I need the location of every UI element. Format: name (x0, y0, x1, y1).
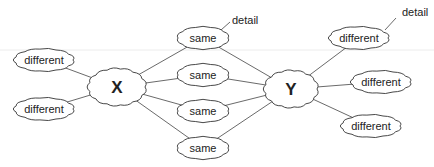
hub-x-label: X (111, 78, 123, 97)
different-node-x-0-label: different (24, 54, 64, 66)
different-node-y-1-label: different (361, 76, 401, 88)
same-node-0: same (177, 26, 228, 49)
different-node-x-0: different (13, 48, 74, 71)
different-node-x-1: different (13, 97, 74, 120)
different-node-y-2-label: different (351, 120, 391, 132)
detail-label: detail (402, 6, 428, 18)
nodes: differentdifferentsamesamesamesamediffer… (13, 26, 411, 159)
same-node-1: same (177, 63, 228, 86)
different-node-y-0-label: different (339, 32, 379, 44)
different-node-y-2: different (340, 114, 401, 137)
same-node-1-label: same (190, 69, 217, 81)
same-node-3-label: same (190, 142, 217, 154)
compare-contrast-diagram: detaildetail differentdifferentsamesames… (0, 0, 434, 167)
same-node-2-label: same (190, 105, 217, 117)
different-node-y-0: different (328, 26, 389, 49)
different-node-y-1: different (350, 70, 411, 93)
same-node-0-label: same (190, 32, 217, 44)
different-node-x-1-label: different (24, 103, 64, 115)
annotations: detaildetail (221, 6, 428, 30)
hub-y-label: Y (285, 80, 297, 99)
detail-label: detail (232, 14, 258, 26)
detail-pointer-1 (385, 18, 396, 30)
detail-pointer-0 (221, 22, 230, 30)
same-node-3: same (177, 136, 228, 159)
hub-x: X (87, 68, 146, 106)
same-node-2: same (177, 99, 228, 122)
